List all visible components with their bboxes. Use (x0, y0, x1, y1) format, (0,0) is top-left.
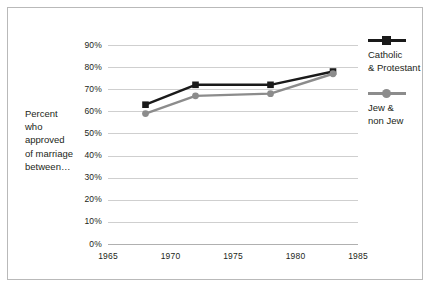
data-point-0-0 (142, 101, 149, 108)
y-axis-caption-line-1: who (25, 120, 107, 133)
data-point-0-2 (267, 82, 274, 89)
y-axis-caption: Percentwhoapprovedof marriagebetween… (25, 107, 107, 173)
data-point-1-3 (330, 70, 337, 77)
x-tick-label-1970: 1970 (161, 251, 181, 261)
y-axis-caption-line-3: of marriage (25, 147, 107, 160)
data-point-0-1 (192, 82, 199, 89)
x-tick-label-1975: 1975 (223, 251, 243, 261)
y-tick-label-90%: 90% (84, 40, 102, 50)
x-tick-label-1965: 1965 (98, 251, 118, 261)
legend-label-1-line-1: non Jew (368, 115, 430, 128)
legend-swatch-circle-icon (368, 88, 406, 99)
series-line-0 (146, 72, 334, 105)
chart-figure: 0%10%20%30%40%50%60%70%80%90% 1965197019… (0, 0, 430, 288)
legend-label-1-line-0: Jew & (368, 102, 430, 115)
y-axis-caption-line-2: approved (25, 133, 107, 146)
data-point-1-1 (192, 92, 199, 99)
data-series-layer (108, 45, 358, 244)
chart-border-frame: 0%10%20%30%40%50%60%70%80%90% 1965197019… (7, 7, 423, 280)
y-tick-label-30%: 30% (84, 172, 102, 182)
data-point-1-2 (267, 90, 274, 97)
legend-entry-1: Jew &non Jew (368, 88, 430, 127)
y-tick-label-0%: 0% (89, 239, 102, 249)
x-tick-label-1980: 1980 (286, 251, 306, 261)
data-point-1-0 (142, 110, 149, 117)
legend-entry-0: Catholic& Protestant (368, 35, 430, 74)
legend-label-0-line-0: Catholic (368, 49, 430, 62)
y-tick-label-10%: 10% (84, 216, 102, 226)
legend-label-0-line-1: & Protestant (368, 62, 430, 75)
y-tick-label-20%: 20% (84, 194, 102, 204)
legend-swatch-square-icon (368, 35, 406, 46)
x-tick-label-1985: 1985 (348, 251, 368, 261)
x-axis-tick-labels: 19651970197519801985 (108, 251, 358, 265)
gridline-0 (108, 244, 358, 245)
y-axis-caption-line-4: between… (25, 160, 107, 173)
y-axis-caption-line-0: Percent (25, 107, 107, 120)
legend-marker-circle-icon (382, 89, 391, 98)
y-tick-label-70%: 70% (84, 84, 102, 94)
series-0 (142, 68, 336, 108)
plot-area (108, 45, 358, 244)
y-tick-label-80%: 80% (84, 62, 102, 72)
legend-label-0: Catholic& Protestant (368, 49, 430, 74)
legend-label-1: Jew &non Jew (368, 102, 430, 127)
legend-marker-square-icon (382, 36, 391, 45)
